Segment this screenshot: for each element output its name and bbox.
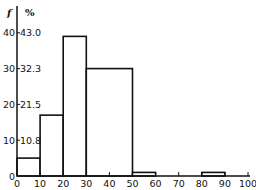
histogram-bar	[63, 36, 86, 176]
x-tick-label: 90	[219, 178, 231, 189]
histogram-bars	[17, 36, 225, 176]
histogram-bar	[86, 69, 132, 176]
x-tick-label: 100	[239, 178, 256, 189]
histogram-bar	[17, 158, 40, 176]
x-tick-label: 30	[80, 178, 92, 189]
y-tick-label-pct: 10.8	[20, 135, 41, 146]
histogram-chart: 010203040506070809010001010.82021.53032.…	[0, 0, 256, 190]
y-tick-label-f: 30	[3, 63, 15, 74]
x-tick-label: 10	[34, 178, 46, 189]
x-tick-label: 20	[57, 178, 69, 189]
y-tick-label-pct: 43.0	[20, 27, 41, 38]
y-axis-label-percent: %	[25, 7, 35, 18]
y-tick-label-pct: 21.5	[20, 99, 41, 110]
histogram-bar	[40, 115, 63, 176]
x-tick-label: 80	[196, 178, 208, 189]
y-axis-label-f: f	[6, 7, 13, 18]
y-tick-label-f: 0	[9, 171, 15, 182]
y-tick-label-f: 10	[3, 135, 15, 146]
x-tick-label: 70	[173, 178, 185, 189]
x-tick-label: 40	[103, 178, 115, 189]
y-tick-label-pct: 32.3	[20, 63, 41, 74]
y-tick-label-f: 40	[3, 27, 15, 38]
x-tick-label: 60	[150, 178, 162, 189]
x-tick-label: 50	[126, 178, 138, 189]
y-tick-label-f: 20	[3, 99, 15, 110]
